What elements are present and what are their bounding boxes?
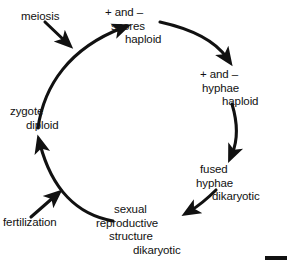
arrow-fertilization-pointer [31, 196, 55, 217]
scale-bar [265, 256, 287, 260]
process-label-meiosis: meiosis [21, 10, 59, 24]
structure-line-2: reproductive [96, 217, 181, 231]
structure-line-3: structure [109, 230, 181, 244]
stage-label-sexual-reproductive-structure: sexual reproductive structure dikaryotic [96, 203, 181, 257]
zygote-line-2: diploid [26, 119, 59, 133]
structure-line-4: dikaryotic [133, 244, 181, 258]
arrow-spores-to-hyphae [160, 22, 227, 58]
stage-label-zygote: zygote diploid [10, 105, 59, 132]
spores-line-1: + and – [105, 6, 161, 20]
zygote-line-1: zygote [10, 105, 59, 119]
fungal-life-cycle-diagram: meiosis + and – spores haploid + and – h… [0, 0, 287, 268]
stage-label-hyphae: + and – hyphae haploid [200, 68, 258, 109]
meiosis-text: meiosis [21, 10, 59, 24]
hyphae-line-3: haploid [222, 95, 258, 109]
fertilization-text: fertilization [3, 216, 57, 230]
arrow-meiosis-pointer [45, 22, 66, 42]
stage-label-spores: + and – spores haploid [105, 6, 161, 47]
spores-line-3: haploid [125, 33, 161, 47]
stage-label-fused-hyphae: fused hyphae dikaryotic [196, 163, 260, 204]
arrow-hyphae-to-fused-hyphae [232, 104, 237, 154]
fused-hyphae-line-3: dikaryotic [212, 190, 260, 204]
hyphae-line-2: hyphae [202, 82, 258, 96]
process-label-fertilization: fertilization [3, 216, 57, 230]
fused-hyphae-line-1: fused [200, 163, 260, 177]
fused-hyphae-line-2: hyphae [196, 177, 260, 191]
spores-line-2: spores [111, 20, 161, 34]
structure-line-1: sexual [114, 203, 181, 217]
hyphae-line-1: + and – [200, 68, 258, 82]
